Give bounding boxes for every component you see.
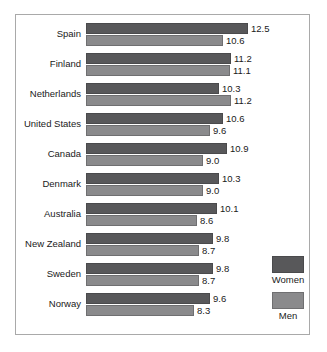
bar-women (86, 173, 219, 184)
bar-group: Denmark10.39.0 (0, 172, 327, 202)
bar-group: United States10.69.6 (0, 112, 327, 142)
bar-value-label-men: 11.1 (233, 65, 251, 76)
legend-swatch-women (272, 256, 304, 273)
chart-figure: Spain12.510.6Finland11.211.1Netherlands1… (0, 0, 327, 352)
bar-value-label-men: 9.0 (206, 185, 219, 196)
bar-men (86, 275, 199, 286)
bar-men (86, 245, 199, 256)
category-label: Netherlands (18, 88, 81, 99)
legend-entry-men: Men (266, 292, 310, 322)
category-label: Canada (18, 148, 81, 159)
category-label: United States (18, 118, 81, 129)
bar-value-label-men: 9.6 (213, 125, 226, 136)
bar-value-label-women: 10.3 (222, 83, 241, 94)
bar-women (86, 263, 213, 274)
bar-men (86, 305, 194, 316)
bar-men (86, 65, 230, 76)
bar-value-label-women: 12.5 (251, 23, 270, 34)
bar-men (86, 185, 203, 196)
bar-women (86, 203, 217, 214)
bar-women (86, 23, 248, 34)
bar-value-label-men: 11.2 (234, 95, 252, 106)
bar-men (86, 95, 231, 106)
bar-value-label-women: 10.1 (220, 203, 239, 214)
bar-men (86, 125, 210, 136)
category-label: Spain (18, 28, 81, 39)
bar-value-label-women: 10.3 (222, 173, 241, 184)
bar-value-label-men: 8.7 (202, 245, 215, 256)
category-label: Australia (18, 208, 81, 219)
bar-value-label-men: 8.6 (200, 215, 213, 226)
bar-value-label-women: 9.8 (216, 263, 229, 274)
legend-label-women: Women (266, 274, 310, 286)
legend-entry-women: Women (266, 256, 310, 286)
bar-value-label-women: 10.9 (230, 143, 249, 154)
chart-legend: Women Men (266, 256, 310, 328)
bar-men (86, 35, 223, 46)
category-label: Denmark (18, 178, 81, 189)
category-label: New Zealand (18, 238, 81, 249)
bar-men (86, 155, 203, 166)
category-label: Sweden (18, 268, 81, 279)
bar-group: Spain12.510.6 (0, 22, 327, 52)
bar-women (86, 293, 210, 304)
category-label: Finland (18, 58, 81, 69)
legend-swatch-men (272, 292, 304, 309)
bar-group: Netherlands10.311.2 (0, 82, 327, 112)
legend-label-men: Men (266, 310, 310, 322)
bar-men (86, 215, 197, 226)
bar-value-label-men: 10.6 (226, 35, 245, 46)
bar-group: Australia10.18.6 (0, 202, 327, 232)
bar-group: Canada10.99.0 (0, 142, 327, 172)
bar-women (86, 53, 231, 64)
bar-value-label-women: 10.6 (226, 113, 245, 124)
bar-value-label-men: 9.0 (206, 155, 219, 166)
bar-value-label-women: 9.6 (213, 293, 226, 304)
bar-value-label-women: 11.2 (234, 53, 252, 64)
bar-women (86, 143, 227, 154)
bar-group: Finland11.211.1 (0, 52, 327, 82)
bar-value-label-men: 8.7 (202, 275, 215, 286)
bar-women (86, 233, 213, 244)
category-label: Norway (18, 298, 81, 309)
bar-women (86, 113, 223, 124)
bar-value-label-women: 9.8 (216, 233, 229, 244)
bar-women (86, 83, 219, 94)
bar-value-label-men: 8.3 (197, 305, 210, 316)
